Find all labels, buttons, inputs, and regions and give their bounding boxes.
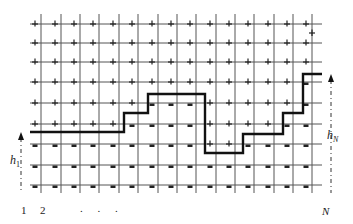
spin-marks	[32, 21, 315, 189]
x-label-ellipsis: . . .	[80, 202, 124, 214]
lattice-interface-diagram	[0, 0, 353, 224]
hN-label: hN	[327, 128, 338, 144]
x-label-2: 2	[40, 204, 46, 216]
height-arrows	[18, 74, 334, 193]
h1-label: h1	[10, 153, 20, 169]
x-label-1: 1	[21, 204, 27, 216]
x-label-N: N	[322, 205, 329, 217]
interface-boundary	[30, 74, 322, 153]
